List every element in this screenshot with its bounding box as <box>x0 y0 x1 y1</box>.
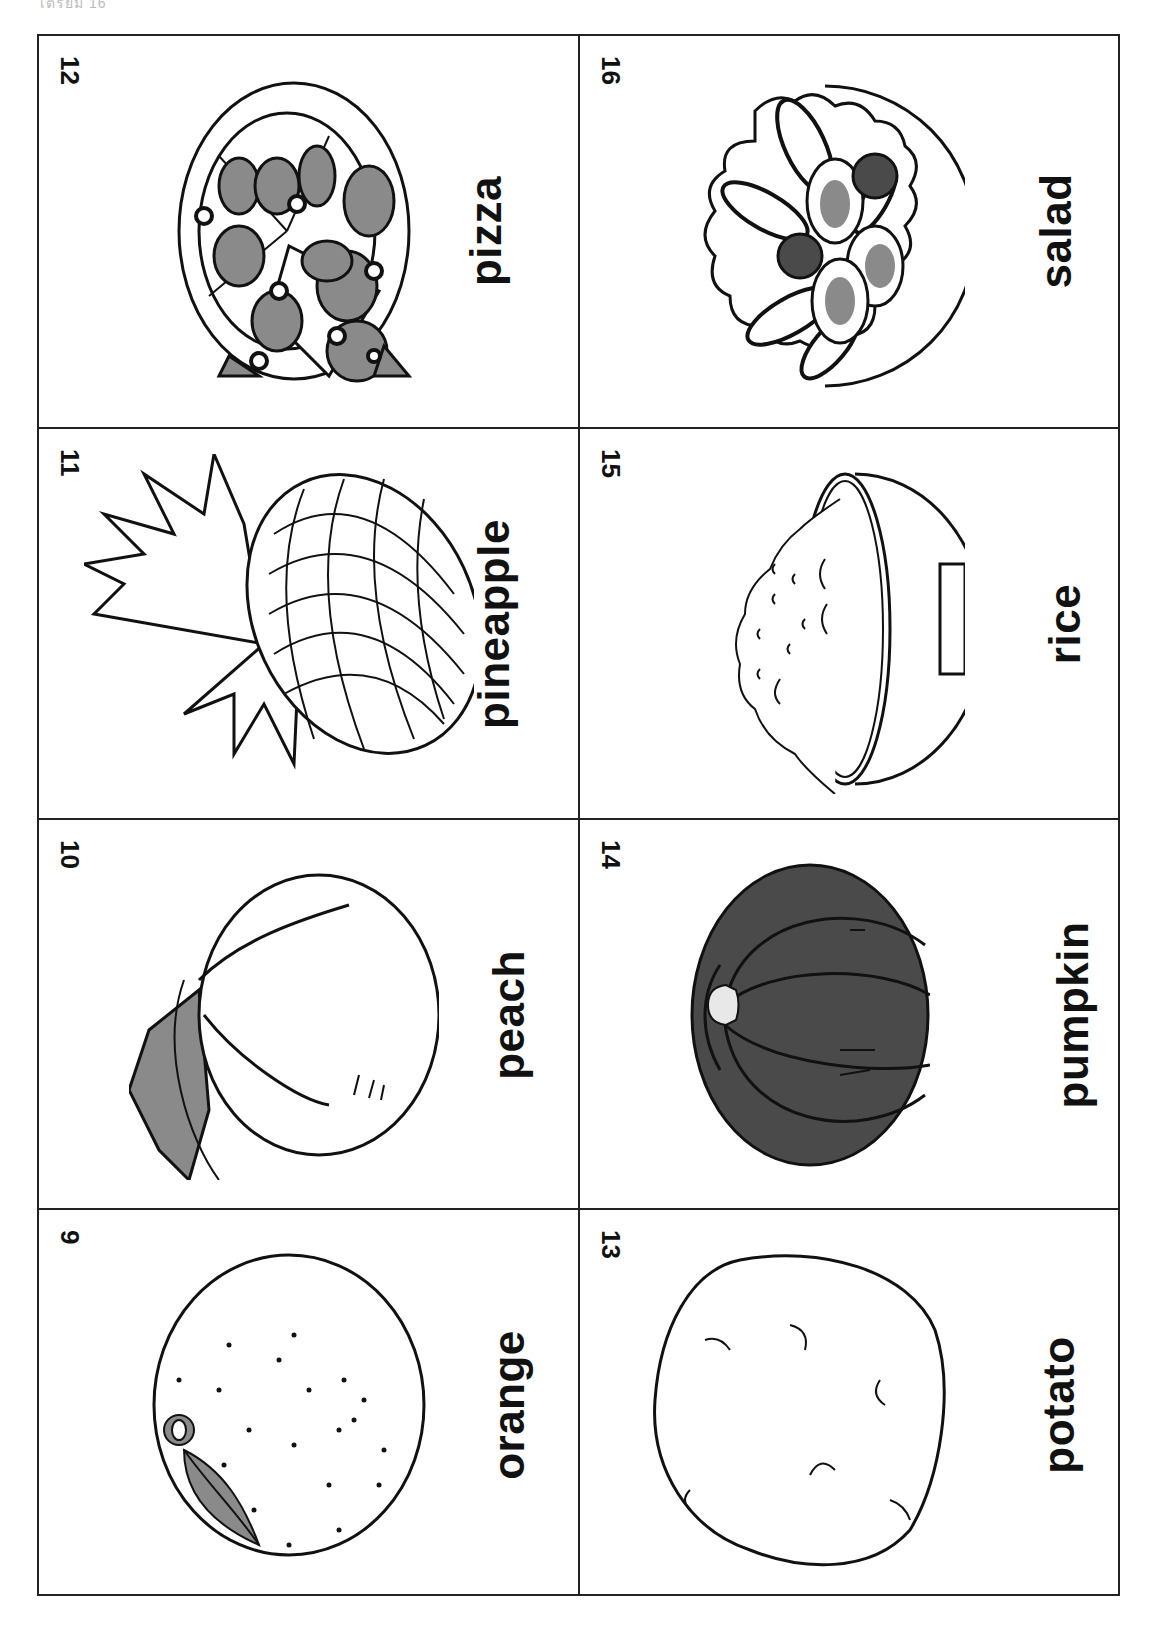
card-word: peach <box>484 950 534 1080</box>
card-number: 15 <box>595 449 626 478</box>
potato-icon <box>650 1250 950 1570</box>
pizza-icon <box>169 76 429 396</box>
card-number: 14 <box>595 840 626 869</box>
card-word: pumpkin <box>1048 922 1098 1109</box>
card-word: salad <box>1031 173 1081 288</box>
card-pumpkin: 14 pumpkin <box>580 820 1122 1208</box>
card-potato: 13 potato <box>580 1210 1122 1596</box>
card-number: 12 <box>54 56 85 85</box>
card-number: 9 <box>54 1230 85 1244</box>
page-header-fragment: เตรียม 16 <box>40 0 106 14</box>
peach-icon <box>129 850 439 1180</box>
rice-bowl-icon <box>715 454 965 794</box>
card-orange: 9 orange <box>39 1210 578 1596</box>
card-word: potato <box>1034 1336 1084 1473</box>
card-word: rice <box>1040 584 1090 664</box>
card-rice: 15 rice <box>580 429 1122 818</box>
pumpkin-icon <box>680 855 930 1185</box>
flashcard-sheet: 12 pizza <box>37 34 1120 1596</box>
card-word: pineapple <box>469 519 519 729</box>
card-number: 16 <box>595 56 626 85</box>
salad-icon <box>695 71 965 401</box>
card-number: 11 <box>54 449 85 477</box>
card-number: 10 <box>54 840 85 869</box>
card-number: 13 <box>595 1230 626 1259</box>
card-word: pizza <box>461 176 511 286</box>
card-word: orange <box>484 1330 534 1480</box>
orange-icon <box>139 1245 429 1565</box>
card-peach: 10 peach <box>39 820 578 1208</box>
pineapple-icon <box>84 454 474 774</box>
card-salad: 16 salad <box>580 36 1122 427</box>
card-pizza: 12 pizza <box>39 36 578 427</box>
card-pineapple: 11 pineapple <box>39 429 578 818</box>
